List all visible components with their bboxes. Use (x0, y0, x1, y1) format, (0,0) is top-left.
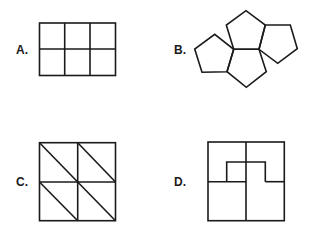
figure-b-pentagons (195, 11, 298, 88)
figure-c-triangles (40, 143, 116, 221)
figure-d-notched-square (208, 142, 284, 221)
figures-canvas (0, 0, 314, 241)
figure-a-grid (40, 23, 116, 76)
